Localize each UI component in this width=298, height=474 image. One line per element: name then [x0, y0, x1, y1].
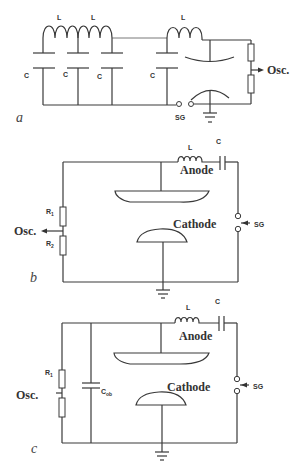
spark-gap-electrode	[235, 226, 240, 231]
panel-label-a: a	[16, 110, 23, 125]
label-anode: Anode	[180, 163, 214, 177]
resistor-r1	[60, 207, 66, 226]
capacitor-3	[101, 53, 123, 105]
label-c4: C	[150, 72, 155, 79]
spark-gap-electrode	[234, 388, 239, 393]
arrow-left-icon	[242, 221, 248, 226]
label-c: C	[215, 298, 220, 305]
arrow-left-icon	[241, 383, 247, 388]
label-c1: C	[24, 72, 29, 79]
spark-gap-electrode	[235, 213, 240, 218]
resistor	[59, 398, 65, 417]
inductor	[175, 318, 219, 324]
label-sg: SG	[254, 221, 265, 228]
label-l3: L	[181, 14, 186, 21]
inductor-l2	[78, 26, 112, 53]
panel-label-c: c	[31, 441, 38, 456]
resistor-r2	[60, 236, 66, 255]
label-r1: R1	[45, 369, 53, 378]
resistor	[248, 44, 254, 61]
capacitor-2	[67, 38, 89, 105]
panel-b: L C SG R1 R2 Osc. Anode Cathode	[14, 138, 265, 298]
label-r1: R1	[46, 208, 54, 217]
inductor	[178, 157, 220, 163]
arrow-right-icon	[258, 68, 264, 73]
spark-gap-electrode	[189, 102, 194, 107]
label-c2: C	[63, 71, 68, 78]
label-c-ob: Cob	[101, 388, 112, 397]
label-c3: C	[97, 73, 102, 80]
capacitor-1	[33, 53, 55, 105]
panel-c: L C SG R1 Osc. Cob Anode Cathode	[16, 298, 264, 460]
ground-icon	[203, 113, 217, 122]
label-cathode: Cathode	[167, 380, 211, 394]
capacitor-4	[156, 53, 178, 105]
circuit-diagram: L L L C C C C SG	[0, 0, 298, 474]
label-l2: L	[91, 14, 96, 21]
label-cathode: Cathode	[173, 217, 217, 231]
resistor	[248, 75, 254, 93]
ground-icon	[155, 452, 169, 460]
anode-electrode	[114, 353, 209, 364]
inductor-l3	[167, 28, 202, 54]
label-r2: R2	[46, 240, 54, 249]
inductor-l1	[43, 26, 78, 53]
label-anode: Anode	[179, 329, 213, 343]
label-osc: Osc.	[267, 63, 289, 77]
spark-gap-electrode	[234, 376, 239, 381]
arrow-left-icon	[41, 229, 47, 234]
panel-a: L L L C C C C SG	[16, 14, 289, 125]
label-sg: SG	[175, 114, 186, 121]
label-sg: SG	[253, 383, 264, 390]
panel-label-b: b	[30, 270, 37, 285]
label-l1: L	[57, 14, 62, 21]
resistor-r1	[59, 370, 65, 388]
label-l: L	[188, 144, 193, 151]
label-c: C	[216, 138, 221, 145]
ground-icon	[156, 290, 170, 298]
anode-electrode	[115, 191, 209, 202]
label-osc: Osc.	[14, 224, 36, 238]
spark-gap-electrode	[177, 102, 182, 107]
label-l: L	[186, 304, 191, 311]
label-osc: Osc.	[16, 388, 38, 402]
